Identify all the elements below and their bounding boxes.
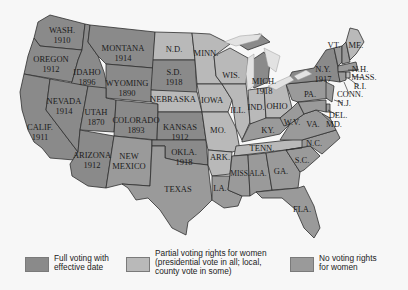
label-me: ME. [349, 40, 364, 50]
label-md: MD. [326, 119, 342, 129]
legend-item-partial: Partial voting rights for women (preside… [126, 249, 267, 277]
state-nj [326, 82, 334, 102]
label-wa: WASH. [49, 25, 75, 35]
label-wy: WYOMING [106, 78, 149, 88]
label-nm: NEW [119, 151, 138, 161]
label-ms: MISS. [230, 169, 250, 178]
label-ar: ARK. [210, 152, 230, 162]
label-il: ILL. [230, 105, 245, 115]
label-la: LA. [213, 183, 226, 193]
legend: Full voting with effective date Partial … [0, 252, 408, 290]
year-or: 1912 [43, 64, 60, 74]
year-wy: 1890 [119, 88, 136, 98]
label-id: IDAHO [73, 67, 100, 77]
label-ca: CALIF. [27, 122, 53, 132]
label-va: VA. [306, 119, 319, 129]
state-ny [286, 48, 340, 84]
label-oh: OHIO [266, 101, 287, 111]
label-fl: FLA. [293, 204, 311, 214]
legend-item-full: Full voting with effective date [25, 254, 109, 272]
label-wi: WIS. [222, 70, 240, 80]
year-ca: 1911 [32, 132, 49, 142]
label-ks: KANSAS [163, 122, 197, 132]
label-mo: MO. [210, 125, 226, 135]
legend-item-none: No voting rights for women [290, 254, 377, 272]
label-vt: VT. [328, 40, 341, 50]
year-mi: 1918 [256, 86, 273, 96]
year-sd: 1918 [166, 77, 183, 87]
state-ri [346, 72, 350, 78]
year-ut: 1870 [88, 117, 105, 127]
label-ne: NEBRASKA [150, 94, 197, 104]
label-ia: IOWA [201, 95, 224, 105]
year-id: 1896 [79, 77, 96, 87]
legend-swatch-none [290, 257, 314, 272]
label-nj: N.J. [337, 98, 351, 108]
label-mi: MICH. [252, 76, 276, 86]
label-co: COLORADO [112, 115, 159, 125]
label-nv: NEVADA [47, 96, 83, 106]
year-mt: 1914 [115, 53, 133, 63]
legend-text-full: Full voting with effective date [54, 254, 109, 272]
legend-none-line2: for women [319, 263, 377, 272]
label-ga: GA. [274, 166, 288, 176]
us-suffrage-map: WASH. 1910 OREGON 1912 CALIF. 1911 IDAHO… [0, 0, 408, 250]
label-ny: N.Y. [315, 64, 330, 74]
year-nv: 1914 [56, 106, 74, 116]
year-ks: 1912 [172, 132, 189, 142]
label-tx: TEXAS [164, 184, 192, 194]
label-nm-2: MEXICO [112, 161, 146, 171]
label-mt: MONTANA [102, 43, 146, 53]
label-pa: PA. [304, 89, 316, 99]
label-al: ALA. [249, 169, 266, 178]
label-sd: S.D. [166, 67, 181, 77]
label-sc: S.C. [295, 155, 310, 165]
year-ny: 1917 [315, 74, 332, 84]
year-wa: 1910 [54, 35, 71, 45]
label-nc: N.C. [306, 138, 322, 148]
legend-partial-line3: county vote in some) [155, 267, 267, 276]
label-or: OREGON [33, 54, 68, 64]
label-wv: W.V. [284, 117, 301, 127]
label-ky: KY. [261, 125, 274, 135]
legend-text-partial: Partial voting rights for women (preside… [155, 249, 267, 277]
label-tn: TENN. [250, 143, 275, 153]
label-ok: OKLA. [171, 147, 197, 157]
legend-swatch-partial [126, 257, 150, 272]
label-nd: N.D. [166, 44, 183, 54]
label-in: IND. [247, 102, 264, 112]
legend-swatch-full [25, 257, 49, 272]
year-az: 1912 [84, 160, 101, 170]
legend-text-none: No voting rights for women [319, 254, 377, 272]
label-ut: UTAH [85, 107, 108, 117]
legend-full-line2: effective date [54, 263, 109, 272]
label-az: ARIZONA [73, 150, 112, 160]
label-mn: MINN. [194, 48, 219, 58]
year-ok: 1918 [176, 157, 193, 167]
year-co: 1893 [128, 125, 145, 135]
